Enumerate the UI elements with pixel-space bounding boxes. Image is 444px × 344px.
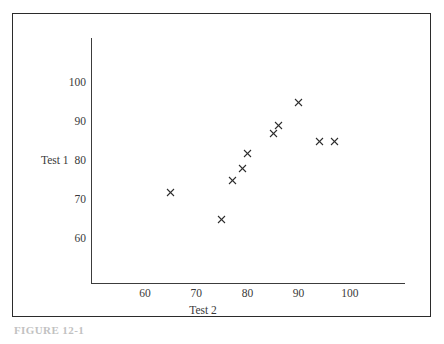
data-point-marker bbox=[166, 188, 175, 197]
data-point-marker bbox=[315, 137, 324, 146]
y-tick-label: 90 bbox=[75, 116, 87, 128]
y-axis-title: Test 1 bbox=[41, 155, 69, 167]
figure-container: 60708090100 60708090100 Test 1 Test 2 FI… bbox=[0, 0, 444, 344]
data-point-marker bbox=[228, 176, 237, 185]
y-axis-line bbox=[91, 38, 92, 284]
data-point-marker bbox=[269, 129, 278, 138]
x-tick-label: 80 bbox=[227, 288, 267, 300]
x-tick-label: 100 bbox=[330, 288, 370, 300]
data-point-marker bbox=[294, 98, 303, 107]
data-point-marker bbox=[274, 121, 283, 130]
x-tick-label: 70 bbox=[176, 288, 216, 300]
y-tick-label: 60 bbox=[75, 233, 87, 245]
data-point-marker bbox=[330, 137, 339, 146]
x-axis-title: Test 2 bbox=[0, 305, 444, 317]
x-axis-title-text: Test 2 bbox=[189, 304, 217, 316]
data-point-marker bbox=[243, 149, 252, 158]
data-point-marker bbox=[217, 215, 226, 224]
y-tick-label: 80 bbox=[75, 155, 87, 167]
y-tick-label: 100 bbox=[69, 77, 86, 89]
x-tick-label: 90 bbox=[279, 288, 319, 300]
x-axis-line bbox=[91, 283, 405, 284]
x-tick-label: 60 bbox=[125, 288, 165, 300]
plot-area: 60708090100 60708090100 Test 1 Test 2 bbox=[0, 0, 444, 344]
y-tick-label: 70 bbox=[75, 194, 87, 206]
figure-caption: FIGURE 12-1 bbox=[14, 324, 84, 336]
data-point-marker bbox=[238, 164, 247, 173]
